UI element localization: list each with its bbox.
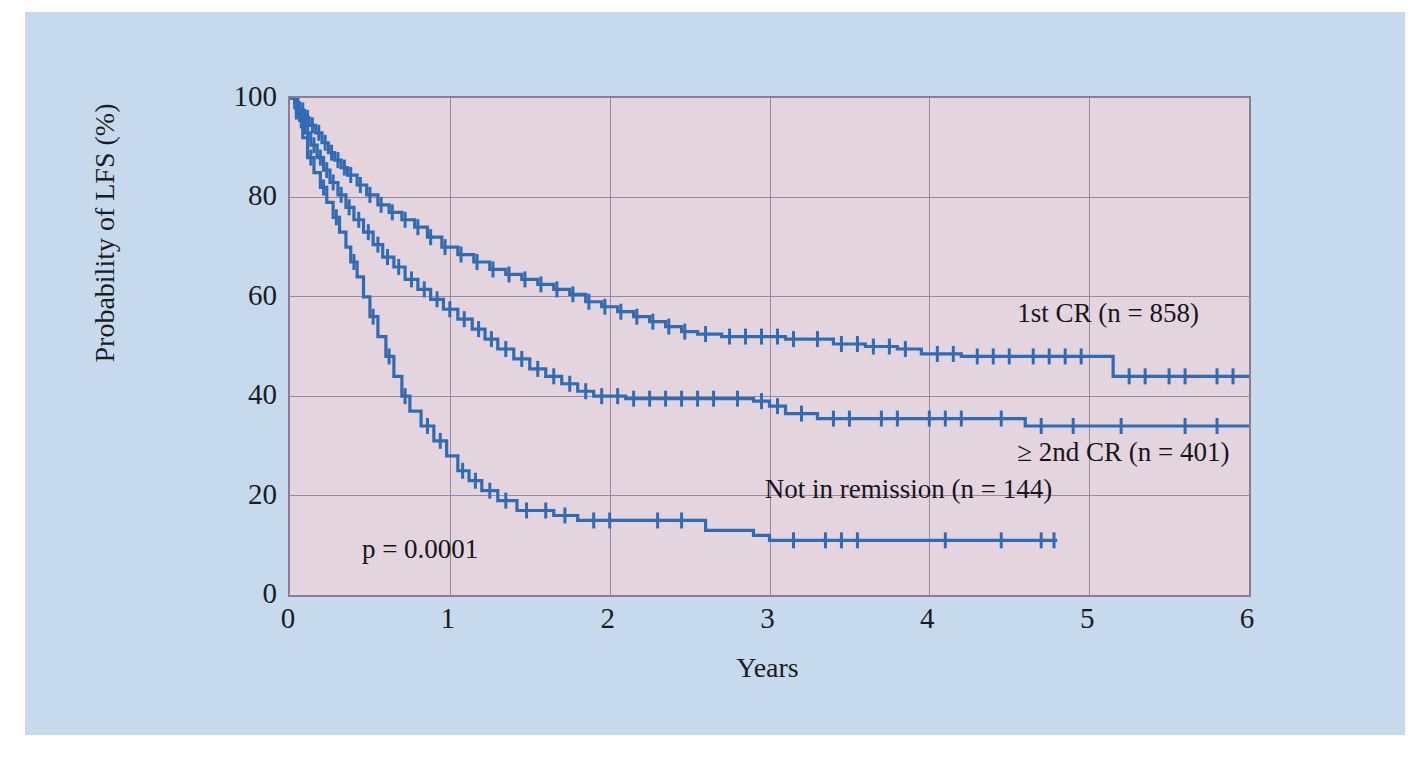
y-tick-40: 40: [217, 380, 277, 409]
curve-2nd-cr: [290, 98, 1249, 434]
x-tick-4: 4: [897, 604, 957, 633]
label-not-in-remission: Not in remission (n = 144): [765, 474, 1052, 505]
figure-panel: 100 80 60 40 20 0 Probability of LFS (%)…: [25, 12, 1405, 735]
y-axis-label: Probability of LFS (%): [89, 38, 121, 428]
p-value-annotation: p = 0.0001: [362, 534, 478, 565]
y-tick-60: 60: [217, 280, 277, 309]
x-tick-2: 2: [578, 604, 638, 633]
step-line: [290, 98, 1249, 426]
x-axis-ticks: 0 1 2 3 4 5 6: [288, 604, 1247, 644]
x-tick-5: 5: [1057, 604, 1117, 633]
step-line: [290, 98, 1249, 376]
label-1st-cr: 1st CR (n = 858): [1017, 298, 1199, 329]
plot-area: p = 0.0001 1st CR (n = 858) ≥ 2nd CR (n …: [288, 96, 1251, 597]
y-tick-100: 100: [217, 82, 277, 111]
x-tick-1: 1: [418, 604, 478, 633]
x-tick-0: 0: [258, 604, 318, 633]
y-tick-80: 80: [217, 181, 277, 210]
x-tick-6: 6: [1217, 604, 1277, 633]
y-axis-ticks: 100 80 60 40 20 0: [213, 96, 277, 593]
x-axis-label: Years: [288, 652, 1247, 684]
label-2nd-cr: ≥ 2nd CR (n = 401): [1017, 437, 1229, 468]
survival-curves: [290, 98, 1249, 595]
y-tick-20: 20: [217, 479, 277, 508]
curve-1st-cr: [290, 98, 1249, 384]
x-tick-3: 3: [738, 604, 798, 633]
